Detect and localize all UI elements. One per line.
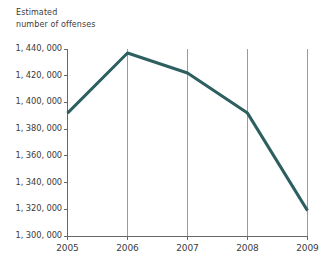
plot-area (0, 0, 335, 268)
line-chart: Estimated number of offenses 1, 440, 000… (0, 0, 335, 268)
axis-tick-marks (64, 49, 308, 240)
gridlines (128, 49, 308, 236)
